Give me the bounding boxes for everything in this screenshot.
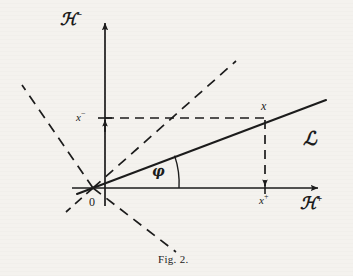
- coordinate-label-x-plus-sup: +: [264, 192, 269, 201]
- figure-caption: Fig. 2.: [158, 253, 189, 265]
- projection-dashed-lines: [98, 118, 265, 194]
- coordinate-axes: [72, 23, 318, 206]
- dashed-diagonal-up-left: [22, 85, 93, 188]
- axis-label-h-plus-sup: +: [317, 193, 322, 204]
- line-L-stroke: [77, 100, 326, 194]
- figure-vector-canvas: [0, 0, 353, 276]
- axis-label-h-minus-sup: −: [77, 9, 82, 20]
- axis-label-h-minus-base: ℋ: [60, 10, 77, 29]
- point-label-x: x: [261, 100, 266, 112]
- figure-2-diagram: ℋ− ℋ+ ℒ φ x x+ x− 0 Fig. 2.: [0, 0, 353, 276]
- dashed-light-cone-lines: [22, 61, 236, 252]
- axis-label-h-plus-base: ℋ: [300, 194, 317, 213]
- axis-label-h-plus: ℋ+: [300, 194, 322, 212]
- coordinate-label-x-minus-sup: −: [81, 109, 86, 118]
- phi-arc-path: [175, 156, 180, 188]
- coordinate-label-x-plus: x+: [259, 193, 268, 206]
- axis-label-h-minus: ℋ−: [60, 10, 82, 28]
- line-label-script-L: ℒ: [303, 129, 317, 148]
- origin-label-zero: 0: [89, 196, 95, 208]
- line-L-solid: [77, 100, 326, 194]
- coordinate-label-x-minus: x−: [76, 110, 85, 123]
- angle-label-phi: φ: [152, 164, 165, 178]
- angle-arc-phi: [175, 156, 180, 188]
